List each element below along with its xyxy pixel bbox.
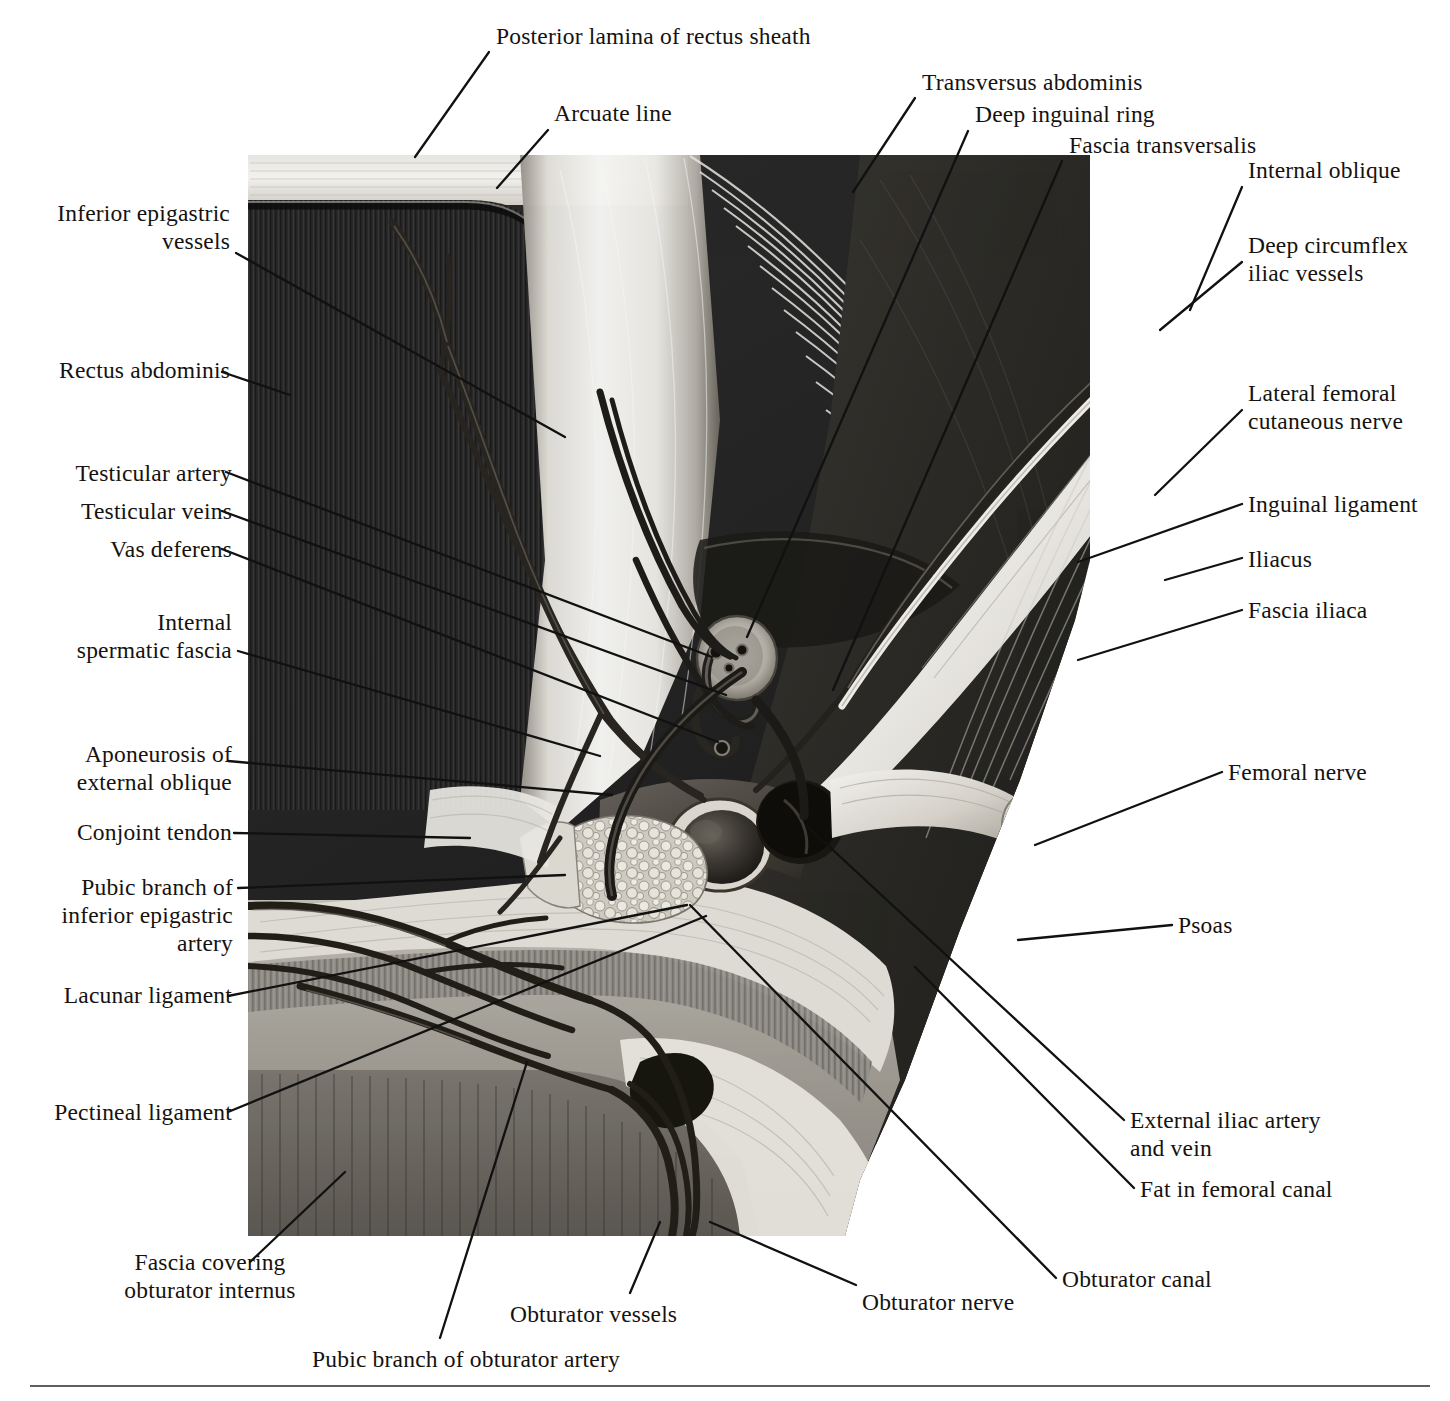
label-inguinal-ligament: Inguinal ligament xyxy=(1248,490,1418,518)
label-testicular-veins: Testicular veins xyxy=(20,497,232,525)
label-external-iliac-artery-and-vein: External iliac artery and vein xyxy=(1130,1106,1321,1162)
label-psoas: Psoas xyxy=(1178,911,1233,939)
label-pectineal-ligament: Pectineal ligament xyxy=(20,1098,232,1126)
label-posterior-lamina-of-rectus-sheath: Posterior lamina of rectus sheath xyxy=(496,22,811,50)
label-fascia-covering-obturator-internus: Fascia covering obturator internus xyxy=(80,1248,340,1304)
label-deep-inguinal-ring: Deep inguinal ring xyxy=(975,100,1155,128)
label-internal-oblique: Internal oblique xyxy=(1248,156,1401,184)
label-obturator-vessels: Obturator vessels xyxy=(510,1300,677,1328)
label-lacunar-ligament: Lacunar ligament xyxy=(20,981,232,1009)
label-fascia-iliaca: Fascia iliaca xyxy=(1248,596,1367,624)
label-obturator-nerve: Obturator nerve xyxy=(862,1288,1014,1316)
label-fascia-transversalis: Fascia transversalis xyxy=(1069,131,1256,159)
label-rectus-abdominis: Rectus abdominis xyxy=(20,356,230,384)
label-conjoint-tendon: Conjoint tendon xyxy=(20,818,232,846)
label-vas-deferens: Vas deferens xyxy=(20,535,232,563)
label-transversus-abdominis: Transversus abdominis xyxy=(922,68,1143,96)
label-aponeurosis-of-external-oblique: Aponeurosis of external oblique xyxy=(20,740,232,796)
label-arcuate-line: Arcuate line xyxy=(554,99,672,127)
label-deep-circumflex-iliac-vessels: Deep circumflex iliac vessels xyxy=(1248,231,1408,287)
label-fat-in-femoral-canal: Fat in femoral canal xyxy=(1140,1175,1333,1203)
label-lateral-femoral-cutaneous-nerve: Lateral femoral cutaneous nerve xyxy=(1248,379,1403,435)
label-obturator-canal: Obturator canal xyxy=(1062,1265,1212,1293)
label-iliacus: Iliacus xyxy=(1248,545,1312,573)
label-testicular-artery: Testicular artery xyxy=(20,459,232,487)
label-femoral-nerve: Femoral nerve xyxy=(1228,758,1367,786)
label-pubic-branch-of-obturator-artery: Pubic branch of obturator artery xyxy=(312,1345,620,1373)
label-internal-spermatic-fascia: Internal spermatic fascia xyxy=(20,608,232,664)
label-inferior-epigastric-vessels: Inferior epigastric vessels xyxy=(20,199,230,255)
label-pubic-branch-of-inferior-epigastric-artery: Pubic branch of inferior epigastric arte… xyxy=(18,873,233,957)
